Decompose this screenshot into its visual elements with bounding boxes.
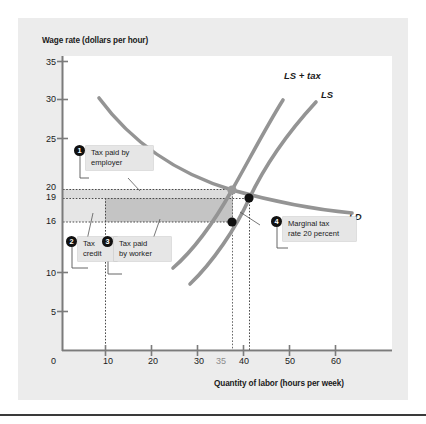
annotation-number-3[interactable]: 3	[102, 236, 113, 247]
marker-no-tax-equilibrium	[244, 193, 253, 202]
chart-graphics-layer	[0, 0, 426, 424]
annotation-number-4[interactable]: 4	[271, 216, 282, 227]
annotation-marginal-tax-rate[interactable]: Marginal tax rate 20 percent	[283, 217, 356, 241]
annotation-number-2[interactable]: 2	[66, 236, 77, 247]
figure-container: Wage rate (dollars per hour) Quantity of…	[0, 0, 426, 424]
marker-after-tax-worker	[227, 217, 236, 226]
region-tax-paid-employer	[63, 189, 233, 198]
annotation-tax-paid-by-employer[interactable]: Tax paid by employer	[86, 146, 153, 170]
bottom-divider-rule	[0, 414, 426, 416]
annotation-number-1[interactable]: 1	[74, 145, 85, 156]
marker-pre-tax-equilibrium	[227, 185, 236, 194]
curve-ls-plus-tax	[173, 100, 283, 268]
leader-line-note-4	[240, 212, 260, 225]
region-tax-credit	[63, 198, 105, 222]
annotation-tax-paid-by-worker[interactable]: Tax paid by worker	[114, 237, 171, 261]
